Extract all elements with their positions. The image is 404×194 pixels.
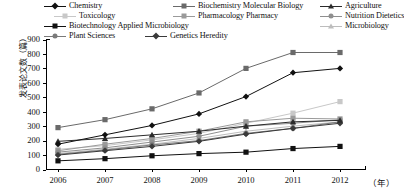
data-point-marker — [337, 50, 342, 55]
data-point-marker — [149, 106, 154, 111]
data-point-marker — [196, 151, 201, 156]
data-point-marker — [290, 50, 295, 55]
data-point-marker — [55, 141, 61, 147]
data-point-marker — [102, 117, 107, 122]
data-point-marker — [55, 158, 60, 163]
chart-series — [55, 144, 342, 164]
data-point-marker — [149, 153, 154, 158]
data-point-marker — [149, 122, 155, 128]
data-point-marker — [290, 111, 295, 116]
data-point-marker — [290, 70, 296, 76]
data-point-marker — [196, 90, 201, 95]
data-point-marker — [243, 150, 248, 155]
data-point-marker — [102, 132, 108, 138]
data-point-marker — [243, 66, 248, 71]
data-point-marker — [196, 111, 202, 117]
data-point-marker — [337, 65, 343, 71]
data-point-marker — [55, 125, 60, 130]
data-point-marker — [243, 93, 249, 99]
data-point-marker — [290, 146, 295, 151]
data-point-marker — [337, 144, 342, 149]
data-point-marker — [337, 99, 342, 104]
data-point-marker — [102, 156, 107, 161]
